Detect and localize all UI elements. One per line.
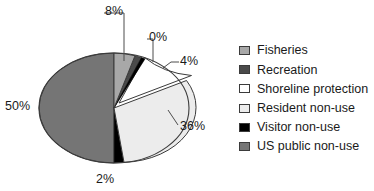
legend-label-recreation: Recreation — [257, 64, 317, 77]
data-label-shoreline-protection: 4% — [180, 54, 198, 68]
data-label-fisheries: 8% — [105, 4, 123, 18]
legend-swatch-shoreline-protection — [239, 84, 250, 93]
legend-item-us-public-non-use[interactable]: US public non-use — [239, 137, 374, 156]
pie-chart-plot-area: 8% 0% 4% 36% 2% 50% — [0, 0, 232, 191]
legend-item-shoreline-protection[interactable]: Shoreline protection — [239, 79, 374, 98]
legend-swatch-us-public-non-use — [239, 142, 250, 151]
chart-legend: Fisheries Recreation Shoreline protectio… — [239, 41, 374, 156]
legend-label-us-public-non-use: US public non-use — [257, 140, 359, 153]
data-label-resident-non-use: 36% — [180, 119, 205, 133]
pie-chart-svg — [0, 0, 232, 191]
legend-label-resident-non-use: Resident non-use — [257, 102, 355, 115]
legend-label-fisheries: Fisheries — [257, 44, 308, 57]
legend-label-visitor-non-use: Visitor non-use — [257, 121, 340, 134]
data-label-visitor-non-use: 2% — [96, 172, 114, 186]
legend-swatch-fisheries — [239, 46, 250, 55]
data-label-us-public-non-use: 50% — [5, 99, 30, 113]
legend-item-recreation[interactable]: Recreation — [239, 60, 374, 79]
legend-item-resident-non-use[interactable]: Resident non-use — [239, 99, 374, 118]
legend-label-shoreline-protection: Shoreline protection — [257, 83, 368, 96]
legend-item-visitor-non-use[interactable]: Visitor non-use — [239, 118, 374, 137]
legend-swatch-recreation — [239, 65, 250, 74]
legend-item-fisheries[interactable]: Fisheries — [239, 41, 374, 60]
leader-line-shoreline-protection — [163, 62, 179, 68]
legend-swatch-visitor-non-use — [239, 123, 250, 132]
legend-swatch-resident-non-use — [239, 104, 250, 113]
pie-slice-us-public-non-use[interactable] — [39, 53, 114, 163]
data-label-recreation: 0% — [149, 30, 167, 44]
pie-chart-figure: 8% 0% 4% 36% 2% 50% Fisheries Recreation… — [0, 0, 374, 191]
